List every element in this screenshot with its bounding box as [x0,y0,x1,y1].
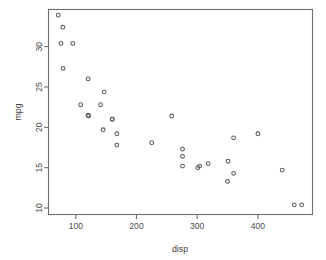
data-point [256,132,260,136]
x-axis-title: disp [172,244,188,254]
x-tick-label: 400 [251,221,266,231]
data-point [59,42,63,46]
data-point [181,147,185,151]
y-tick-label: 20 [35,122,45,132]
data-point [226,159,230,163]
data-point [181,164,185,168]
data-point [99,103,103,107]
data-point [71,42,75,46]
data-point [61,67,65,71]
plot-frame [49,10,313,215]
y-tick-label: 15 [35,163,45,173]
x-tick-label: 100 [69,221,84,231]
data-point [61,25,65,29]
data-point [280,168,284,172]
data-points-layer [56,13,303,206]
data-point [300,203,304,207]
x-tick-label: 200 [129,221,144,231]
data-point [181,154,185,158]
data-point [232,136,236,140]
data-point [206,162,210,166]
data-point [86,77,90,81]
data-point [115,132,119,136]
data-point [226,180,230,184]
data-point [101,128,105,132]
scatter-plot-figure: 100200300400 1015202530 disp mpg [0,0,326,260]
y-tick-label: 10 [35,203,45,213]
x-tick-label: 300 [190,221,205,231]
y-axis-ticks: 1015202530 [35,42,49,213]
y-tick-label: 30 [35,42,45,52]
data-point [170,114,174,118]
x-axis-ticks: 100200300400 [69,215,266,232]
data-point [292,203,296,207]
data-point [115,143,119,147]
data-point [110,117,114,121]
y-tick-label: 25 [35,82,45,92]
data-point [102,90,106,94]
data-point [232,171,236,175]
data-point [150,141,154,145]
data-point [56,13,60,17]
plot-canvas: 100200300400 1015202530 disp mpg [0,0,326,260]
y-axis-title: mpg [13,103,23,120]
data-point [79,103,83,107]
